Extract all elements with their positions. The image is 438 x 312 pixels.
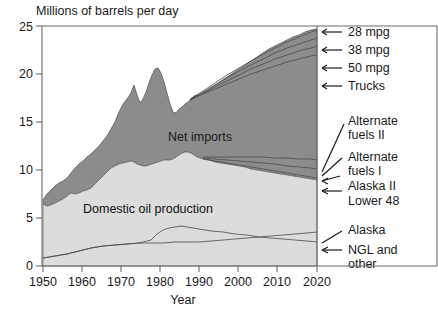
leader-alaska (322, 231, 342, 243)
annotation-alaska: Alaska (348, 223, 386, 237)
x-tick-label-1950: 1950 (29, 275, 57, 289)
x-tick-label-2020: 2020 (303, 275, 331, 289)
annotation-ngl-line1: NGL and (348, 243, 398, 257)
x-tick-label-2010: 2010 (263, 275, 291, 289)
leader-alternate-fuels-I (322, 158, 342, 176)
chart-title: Millions of barrels per day (36, 4, 179, 18)
annotation-alternate-fuels-I-line2: fuels I (348, 164, 381, 178)
y-tick-label-15: 15 (19, 115, 33, 129)
y-tick-label-5: 5 (26, 211, 33, 225)
annotation-38-mpg: 38 mpg (348, 43, 390, 57)
label-net-imports: Net imports (168, 130, 232, 144)
annotation-lower-48: Lower 48 (348, 194, 399, 208)
y-tick-label-20: 20 (19, 67, 33, 81)
x-tick-label-1960: 1960 (68, 275, 96, 289)
x-tick-label-1970: 1970 (107, 275, 135, 289)
annotation-ngl-line2: other (348, 257, 377, 271)
x-tick-label-1990: 1990 (185, 275, 213, 289)
annotation-50-mpg: 50 mpg (348, 61, 390, 75)
annotation-28-mpg: 28 mpg (348, 25, 390, 39)
oil-supply-demand-chart: 0 5 10 15 20 25 1950 1960 1970 1980 1990… (0, 0, 438, 312)
annotation-alternate-fuels-II-line1: Alternate (348, 114, 398, 128)
label-domestic-production: Domestic oil production (83, 202, 213, 216)
x-axis-label: Year (170, 293, 195, 307)
y-tick-label-0: 0 (26, 259, 33, 273)
annotation-alternate-fuels-II-line2: fuels II (348, 128, 385, 142)
annotation-alaska-II: Alaska II (348, 179, 396, 193)
leader-alternate-fuels-II (322, 124, 344, 172)
annotation-trucks: Trucks (348, 79, 385, 93)
y-tick-label-10: 10 (19, 163, 33, 177)
x-tick-label-1980: 1980 (146, 275, 174, 289)
x-tick-label-2000: 2000 (224, 275, 252, 289)
annotation-alternate-fuels-I-line1: Alternate (348, 150, 398, 164)
y-tick-label-25: 25 (19, 20, 33, 34)
arrowhead-alaska-II (322, 178, 328, 184)
